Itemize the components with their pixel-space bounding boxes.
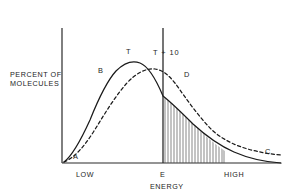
annotation-d: D bbox=[184, 70, 190, 79]
curve-t-plus-10 bbox=[64, 69, 281, 162]
x-axis-title: ENERGY bbox=[150, 182, 184, 191]
y-axis-label-line1: PERCENT OF bbox=[10, 70, 62, 79]
y-axis-label-line2: MOLECULES bbox=[10, 79, 62, 88]
annotation-a: A bbox=[73, 152, 78, 161]
x-tick-e: E bbox=[160, 170, 165, 179]
annotation-c: C bbox=[265, 147, 271, 156]
curve-label-t: T bbox=[126, 47, 131, 56]
y-axis-label: PERCENT OF MOLECULES bbox=[10, 70, 62, 88]
shaded-region-hatch bbox=[165, 80, 224, 164]
curve-t bbox=[64, 62, 281, 163]
annotation-b: B bbox=[98, 66, 103, 75]
x-tick-high: HIGH bbox=[224, 170, 244, 179]
x-tick-low: LOW bbox=[76, 170, 94, 179]
curve-label-t-plus-10: T + 10 bbox=[153, 48, 179, 57]
chart-figure: PERCENT OF MOLECULES LOW E HIGH ENERGY T… bbox=[0, 0, 287, 193]
chart-canvas bbox=[0, 0, 287, 193]
